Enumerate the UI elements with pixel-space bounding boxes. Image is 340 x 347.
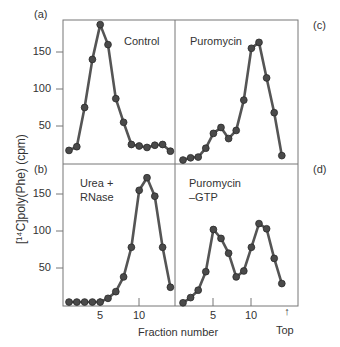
top-arrow-icon: ↑ bbox=[277, 305, 297, 317]
xtick-b-5: 5 bbox=[90, 309, 110, 321]
condition-urea: Urea + bbox=[80, 176, 114, 190]
ytick-a-150: 150 bbox=[23, 45, 51, 57]
condition-puromycin-2: Puromycin bbox=[189, 176, 241, 190]
chart-canvas bbox=[0, 0, 340, 347]
condition-urea-rnase: Urea + RNase bbox=[80, 176, 114, 204]
condition-minus-gtp: –GTP bbox=[189, 190, 241, 204]
condition-control: Control bbox=[124, 34, 159, 48]
condition-puromycin: Puromycin bbox=[190, 34, 242, 48]
panel-label-a: (a) bbox=[34, 8, 47, 20]
panel-label-c: (c) bbox=[313, 19, 326, 31]
xtick-d-5: 5 bbox=[203, 309, 223, 321]
x-axis-label: Fraction number bbox=[138, 326, 218, 338]
condition-rnase: RNase bbox=[80, 190, 114, 204]
ytick-a-100: 100 bbox=[23, 82, 51, 94]
panel-label-d: (d) bbox=[313, 163, 326, 175]
condition-puromycin-gtp: Puromycin –GTP bbox=[189, 176, 241, 204]
ytick-b-50: 50 bbox=[23, 261, 51, 273]
y-axis-label: [¹⁴C]poly(Phe) (cpm) bbox=[14, 134, 28, 244]
ytick-a-50: 50 bbox=[23, 119, 51, 131]
top-label: Top bbox=[276, 324, 294, 336]
panel-label-b: (b) bbox=[34, 163, 47, 175]
xtick-b-10: 10 bbox=[129, 309, 149, 321]
xtick-d-10: 10 bbox=[241, 309, 261, 321]
